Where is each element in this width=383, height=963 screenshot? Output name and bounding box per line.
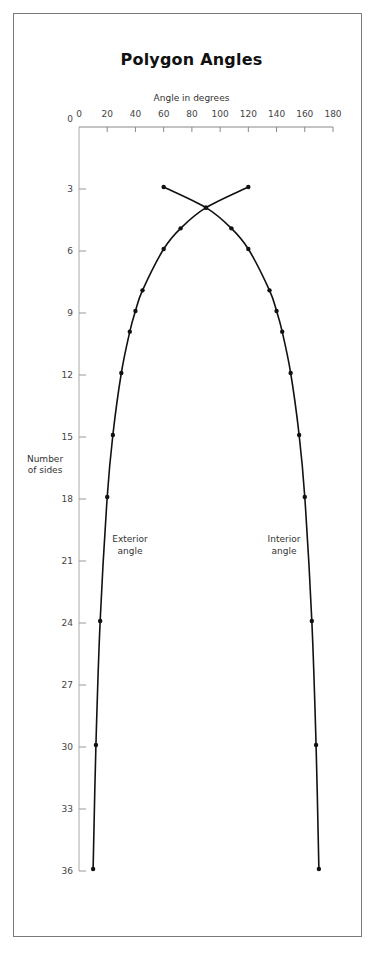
exterior-angle-point [161,247,165,251]
exterior-angle-point [98,619,102,623]
y-tick-label: 18 [62,494,74,504]
exterior-angle-curve [93,187,248,869]
interior-angle-point [161,185,165,189]
interior-angle-point [288,371,292,375]
interior-angle-point [229,226,233,230]
interior-angle-point [267,288,271,292]
chart-svg: 0204060801001201401601800369121518212427… [0,0,383,963]
y-tick-label: 6 [67,246,73,256]
y-tick-label: 15 [62,432,73,442]
interior-angle-label: angle [272,546,297,556]
y-tick-label: 24 [62,618,74,628]
exterior-angle-point [119,371,123,375]
interior-angle-label: Interior [268,534,301,544]
x-tick-label: 20 [101,109,113,119]
y-tick-label: 12 [62,370,73,380]
x-tick-label: 100 [212,109,229,119]
x-tick-label: 60 [158,109,170,119]
x-tick-label: 140 [268,109,285,119]
x-tick-label: 180 [324,109,341,119]
exterior-angle-point [91,867,95,871]
exterior-angle-label: Exterior [112,534,148,544]
y-tick-label: 33 [62,804,73,814]
interior-angle-point [317,867,321,871]
exterior-angle-point [111,433,115,437]
interior-angle-point [280,329,284,333]
y-tick-label: 0 [67,114,73,124]
exterior-angle-point [94,743,98,747]
exterior-angle-point [140,288,144,292]
exterior-angle-point [246,185,250,189]
x-tick-label: 40 [130,109,142,119]
y-tick-label: 36 [62,866,74,876]
exterior-angle-point [178,226,182,230]
x-tick-label: 0 [76,109,82,119]
y-axis-label: Number [27,454,63,464]
exterior-angle-point [133,309,137,313]
exterior-angle-label: angle [118,546,143,556]
exterior-angle-point [105,495,109,499]
y-tick-label: 21 [62,556,73,566]
interior-angle-point [297,433,301,437]
interior-angle-point [274,309,278,313]
exterior-angle-point [128,329,132,333]
x-tick-label: 120 [240,109,257,119]
interior-angle-point [303,495,307,499]
interior-angle-point [310,619,314,623]
y-axis-label: of sides [28,465,63,475]
x-tick-label: 160 [296,109,313,119]
y-tick-label: 27 [62,680,73,690]
y-tick-label: 9 [67,308,73,318]
interior-angle-point [246,247,250,251]
interior-angle-curve [164,187,319,869]
y-tick-label: 3 [67,184,73,194]
y-tick-label: 30 [62,742,74,752]
x-tick-label: 80 [186,109,198,119]
interior-angle-point [314,743,318,747]
interior-angle-point [204,205,208,209]
